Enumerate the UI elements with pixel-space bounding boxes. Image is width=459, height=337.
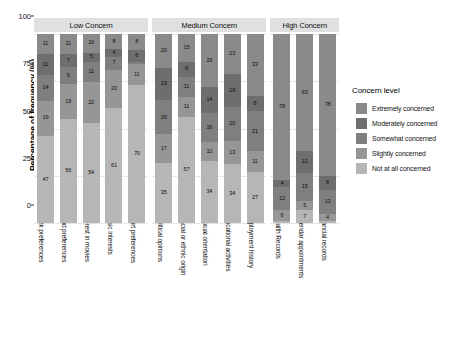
legend-item[interactable]: Somewhat concerned [352,131,459,145]
bar-segment[interactable]: 8 [319,176,336,191]
bar-segment[interactable]: 8 [105,34,122,49]
bar-segment-value: 15 [184,45,190,51]
bar-segment[interactable]: 15 [178,34,195,62]
stacked-bar[interactable]: 158111157 [178,34,195,223]
bar-segment[interactable]: 6 [273,210,290,221]
bar-segment[interactable]: 54 [83,123,100,223]
bar-segment[interactable]: 15 [296,173,313,201]
stacked-bar[interactable]: 63121557 [296,34,313,223]
bar-segment[interactable]: 11 [37,54,54,74]
bar-segment[interactable]: 23 [224,34,241,74]
stacked-bar[interactable]: 2914161034 [201,34,218,223]
bar-segment-value: 4 [112,50,115,56]
x-tick: *Health Records [273,207,290,327]
bar-segment-value: 7 [112,60,115,66]
bar-segment-value: 8 [326,180,329,186]
stacked-bar[interactable]: 2019201735 [155,34,172,223]
y-tick-mark [31,16,34,17]
bar-segment[interactable]: 17 [155,134,172,163]
stacked-bar[interactable]: 8611170 [128,34,145,223]
bar-segment[interactable]: 8 [247,96,264,111]
bar-segment[interactable]: 4 [319,214,336,221]
x-tick: Food preferences [60,207,77,327]
bar-segment[interactable]: 13 [319,190,336,214]
bar-segment[interactable]: 20 [224,107,241,142]
bar-segment[interactable]: 7 [105,57,122,70]
bar-segment[interactable]: 8 [178,62,195,77]
bar-segment-value: 7 [67,58,70,64]
x-axis: Drink preferencesFood preferencesInteres… [34,207,339,327]
stacked-bar[interactable]: 7841261 [273,34,290,223]
bar-segment[interactable]: 10 [201,142,218,160]
bar-segment[interactable]: 11 [60,34,77,54]
bar-segment-value: 54 [88,170,94,176]
bar-segment[interactable]: 78 [319,34,336,176]
bar-segment[interactable]: 5 [83,53,100,62]
bar-segment[interactable]: 1 [273,221,290,223]
legend-item[interactable]: Extremely concerned [352,101,459,115]
bar-segment[interactable]: 5 [296,201,313,210]
bar-segment[interactable]: 61 [105,108,122,223]
bar-segment[interactable]: 34 [224,164,241,223]
stacked-bar[interactable]: 2319201334 [224,34,241,223]
legend-item[interactable]: Not at all concerned [352,161,459,175]
stacked-bar[interactable]: 7881341 [319,34,336,223]
bar-segment[interactable]: 22 [83,82,100,123]
bar-segment[interactable]: 12 [296,151,313,173]
bar-segment[interactable]: 12 [273,187,290,209]
bar-segment[interactable]: 19 [60,84,77,119]
bar-segment[interactable]: 57 [178,117,195,223]
bar-segment[interactable]: 78 [273,34,290,180]
bar-segment[interactable]: 4 [273,180,290,187]
bar-segment[interactable]: 16 [201,113,218,142]
bar-segment[interactable]: 8 [128,34,145,50]
stacked-bar[interactable]: 8472061 [105,34,122,223]
bar-segment[interactable]: 19 [37,101,54,136]
bar-segment-value: 8 [185,66,188,72]
stacked-bar[interactable]: 338211127 [247,34,264,223]
bar-segment[interactable]: 19 [155,68,172,100]
bar-segment[interactable]: 33 [247,34,264,96]
legend-item[interactable]: Slightly concerned [352,146,459,160]
bar-segment[interactable]: 14 [37,75,54,101]
x-tick: Sport preferences [128,207,145,327]
bar-segment[interactable]: 11 [83,62,100,82]
bar-segment[interactable]: 11 [247,151,264,172]
bar-segment[interactable]: 11 [37,34,54,54]
bar-segment[interactable]: 20 [155,34,172,68]
bar-segment[interactable]: 14 [201,87,218,113]
bar-segment[interactable]: 29 [201,34,218,87]
legend-item[interactable]: Moderately concerned [352,116,459,130]
bar-segment-value: 5 [90,54,93,60]
bar-segment[interactable]: 20 [155,100,172,134]
bar-segment[interactable]: 10 [83,34,100,53]
bar-segment[interactable]: 20 [105,70,122,108]
stacked-bar[interactable]: 11791956 [60,34,77,223]
bar-segment[interactable]: 47 [37,136,54,223]
bar-segment[interactable]: 6 [128,50,145,62]
bar-segment[interactable]: 11 [128,64,145,86]
bar-segment[interactable]: 11 [178,97,195,117]
bar-segment[interactable]: 7 [296,210,313,223]
bar-segment[interactable]: 4 [105,49,122,57]
bar-segment-value: 13 [325,199,331,205]
bar-segment[interactable]: 9 [60,67,77,84]
facet-strip-row: Low Concern Medium Concern High Concern [34,18,339,32]
bar-segment[interactable]: 35 [155,163,172,223]
bar-segment[interactable]: 34 [201,161,218,223]
bar-segment[interactable]: 63 [296,34,313,151]
bar-segment[interactable]: 1 [319,221,336,223]
bar-segment[interactable]: 21 [247,111,264,151]
stacked-bar[interactable]: 1111141947 [37,34,54,223]
x-group-low: Drink preferencesFood preferencesInteres… [34,207,148,327]
x-group-medium: *Political opinions*Racial or ethnic ori… [152,207,266,327]
bar-segment[interactable]: 27 [247,172,264,223]
bar-segment[interactable]: 56 [60,119,77,223]
chart-figure: Percentage of frequency (%) 0255075100 L… [0,0,459,337]
bar-segment[interactable]: 7 [60,54,77,67]
bar-segment[interactable]: 70 [128,85,145,223]
bar-segment[interactable]: 19 [224,74,241,107]
bar-segment[interactable]: 13 [224,141,241,164]
bar-segment[interactable]: 11 [178,77,195,97]
stacked-bar[interactable]: 105112254 [83,34,100,223]
